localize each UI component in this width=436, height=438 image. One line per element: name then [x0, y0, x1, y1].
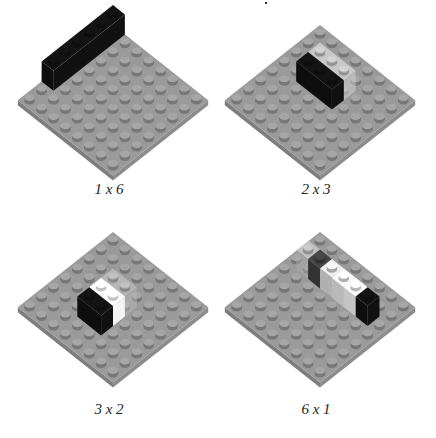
- panel-6x1: 6 x 1: [207, 207, 425, 426]
- baseplate-3x2-illustration: [0, 207, 218, 426]
- panel-3x2: 3 x 2: [0, 207, 218, 426]
- panel-1x6: 1 x 6: [0, 0, 218, 219]
- caption-1x6: 1 x 6: [0, 181, 218, 198]
- caption-2x3: 2 x 3: [207, 181, 425, 198]
- caption-6x1: 6 x 1: [207, 401, 425, 418]
- caption-3x2: 3 x 2: [0, 401, 218, 418]
- baseplate-6x1-illustration: [207, 207, 425, 426]
- panel-2x3: 2 x 3: [207, 0, 425, 219]
